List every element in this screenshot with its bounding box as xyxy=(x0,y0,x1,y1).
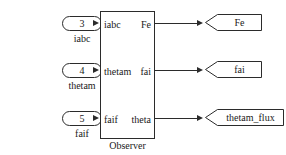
observer-block[interactable]: iabc Fe thetam fai faif theta xyxy=(100,11,155,139)
arrowhead-icon xyxy=(197,20,203,26)
block-input-label-iabc: iabc xyxy=(104,20,121,30)
arrowhead-icon xyxy=(93,67,99,73)
block-output-label-theta: theta xyxy=(132,115,151,125)
output-port-fai[interactable]: fai xyxy=(205,61,262,78)
input-port-number: 3 xyxy=(80,19,85,29)
output-port-label: Fe xyxy=(219,14,260,31)
output-port-fe[interactable]: Fe xyxy=(205,14,262,31)
block-diagram-canvas: 3 iabc Fe 4 thetam fai 5 faif thetam_flu xyxy=(0,0,286,155)
signal-line-block-to-thetam-flux xyxy=(155,118,200,119)
input-port-number: 4 xyxy=(80,66,85,76)
output-port-thetam-flux[interactable]: thetam_flux xyxy=(205,109,284,126)
output-port-label: fai xyxy=(219,61,260,78)
arrowhead-icon xyxy=(93,20,99,26)
signal-line-block-to-fai xyxy=(155,70,200,71)
output-port-label: thetam_flux xyxy=(219,109,282,126)
block-output-label-fe: Fe xyxy=(141,20,151,30)
arrowhead-icon xyxy=(197,67,203,73)
input-port-number: 5 xyxy=(80,114,85,124)
block-input-label-faif: faif xyxy=(104,115,118,125)
observer-block-caption: Observer xyxy=(100,141,155,151)
block-input-label-thetam: thetam xyxy=(104,67,131,77)
arrowhead-icon xyxy=(93,115,99,121)
block-output-label-fai: fai xyxy=(140,67,151,77)
signal-line-block-to-fe xyxy=(155,23,200,24)
arrowhead-icon xyxy=(197,115,203,121)
